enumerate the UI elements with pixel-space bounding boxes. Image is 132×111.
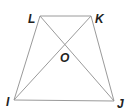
label-K: K bbox=[95, 12, 105, 26]
trapezoid-diagram: L K O I J bbox=[0, 0, 132, 111]
label-J: J bbox=[117, 97, 124, 111]
segment-IL bbox=[14, 16, 40, 100]
label-L: L bbox=[28, 12, 35, 26]
label-I: I bbox=[6, 95, 10, 109]
label-O: O bbox=[60, 51, 70, 65]
diagonal-KI bbox=[14, 16, 91, 100]
segment-JI bbox=[14, 100, 114, 101]
